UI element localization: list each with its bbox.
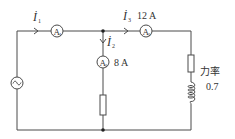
junction-bottom (101, 128, 105, 132)
inductor-icon (188, 82, 195, 104)
ammeter-a2: A 2 (97, 56, 109, 68)
ammeter-a1: A 1 (51, 25, 63, 37)
circuit-diagram: A 1 A 3 A 2 İ 1 İ 3 İ 2 12 A 8 A 力率 0.7 (0, 0, 235, 139)
power-factor-label: 力率 (200, 65, 220, 77)
svg-text:2: 2 (112, 43, 115, 49)
reading-a2: 8 A (114, 57, 129, 68)
label-i2: İ 2 (106, 35, 115, 49)
ammeter-a3: A 3 (140, 25, 152, 37)
ac-source-icon (11, 77, 23, 89)
label-i3: İ 3 (122, 9, 131, 23)
svg-text:3: 3 (128, 17, 131, 23)
label-i1: İ 1 (32, 10, 41, 24)
resistor-right-icon (188, 55, 194, 72)
svg-text:1: 1 (38, 18, 41, 24)
resistor-middle-icon (100, 95, 106, 115)
junction-top (101, 29, 105, 33)
power-factor-value: 0.7 (206, 81, 219, 92)
reading-a3: 12 A (137, 10, 157, 21)
